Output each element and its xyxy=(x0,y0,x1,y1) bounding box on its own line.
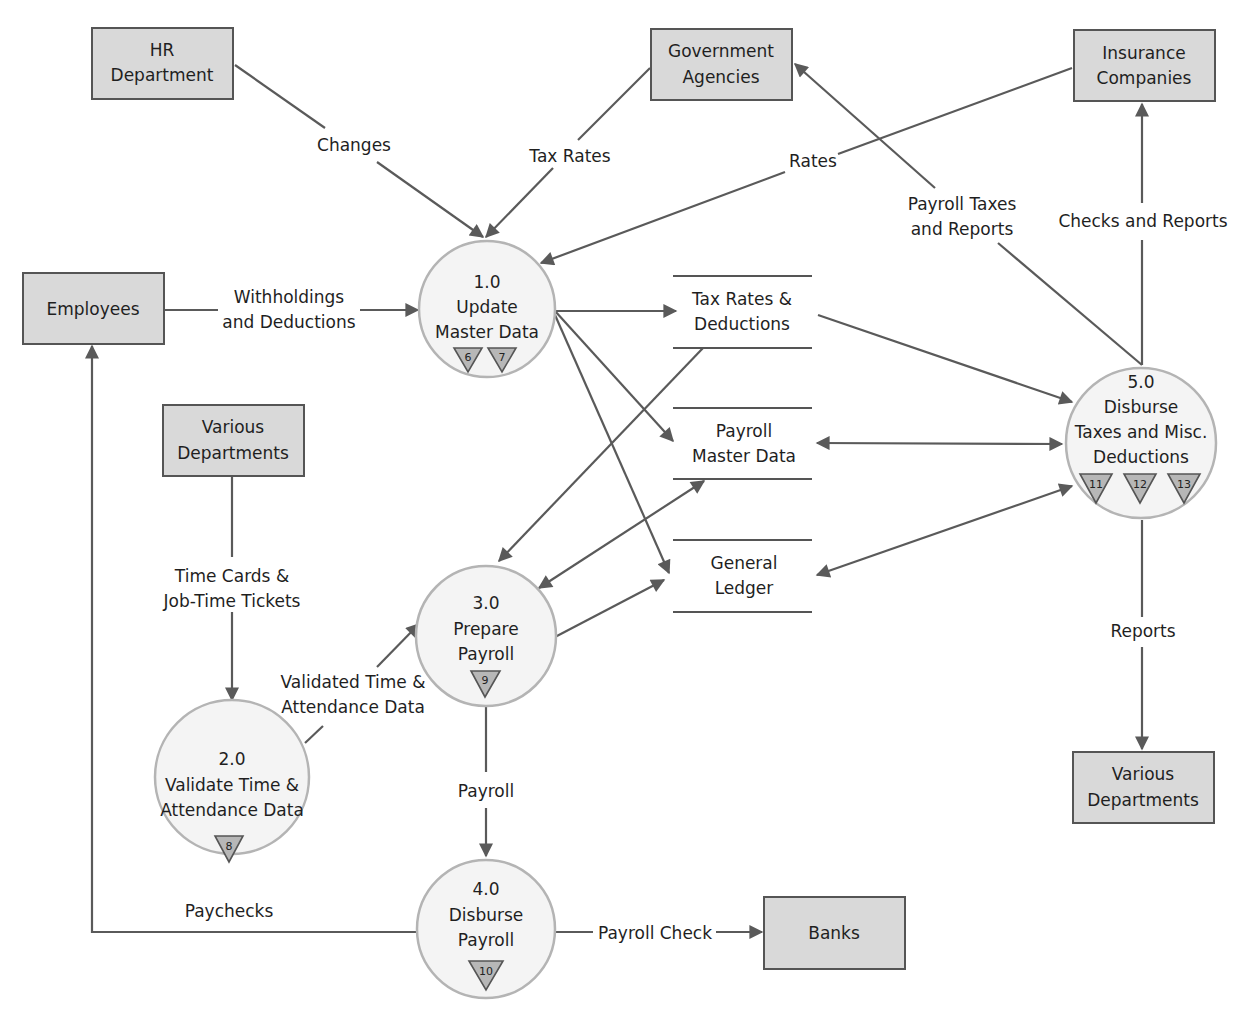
entity-insurance-companies: Insurance Companies xyxy=(1074,30,1215,101)
flow-tax-rates xyxy=(578,68,650,140)
flow-changes-arrow xyxy=(377,162,483,237)
svg-text:Agencies: Agencies xyxy=(682,67,759,87)
svg-text:Department: Department xyxy=(111,65,214,85)
svg-text:Government: Government xyxy=(668,41,774,61)
entity-employees: Employees xyxy=(23,273,164,344)
svg-text:11: 11 xyxy=(1089,478,1103,491)
flow-ledger-p5 xyxy=(817,486,1072,575)
label-checks-reports: Checks and Reports xyxy=(1058,211,1227,231)
label-time-cards-2: Job-Time Tickets xyxy=(163,591,301,611)
svg-text:Companies: Companies xyxy=(1097,68,1192,88)
svg-text:Employees: Employees xyxy=(46,299,139,319)
svg-text:Disburse: Disburse xyxy=(449,905,524,925)
flow-taxstore-p5 xyxy=(818,315,1072,402)
label-payroll: Payroll xyxy=(458,781,514,801)
label-rates: Rates xyxy=(789,151,837,171)
flow-tax-rates-arrow xyxy=(486,168,553,237)
entity-banks: Banks xyxy=(764,897,905,969)
label-payroll-taxes-2: and Reports xyxy=(911,219,1014,239)
flow-changes xyxy=(235,65,325,128)
svg-text:Payroll: Payroll xyxy=(716,421,772,441)
svg-text:13: 13 xyxy=(1177,478,1191,491)
flow-rates xyxy=(838,68,1072,154)
entity-government-agencies: Government Agencies xyxy=(651,29,792,100)
label-paychecks: Paychecks xyxy=(185,901,274,921)
label-withholdings-1: Withholdings xyxy=(234,287,345,307)
process-4-disburse-payroll: 4.0 Disburse Payroll 10 xyxy=(417,860,555,998)
svg-text:2.0: 2.0 xyxy=(218,749,245,769)
svg-text:Banks: Banks xyxy=(808,923,860,943)
flow-p3-master xyxy=(539,481,704,588)
svg-text:12: 12 xyxy=(1133,478,1147,491)
svg-text:Master Data: Master Data xyxy=(692,446,796,466)
svg-text:4.0: 4.0 xyxy=(472,879,499,899)
svg-text:Tax Rates &: Tax Rates & xyxy=(691,289,792,309)
store-tax-rates-deductions: Tax Rates & Deductions xyxy=(673,276,812,348)
svg-text:Departments: Departments xyxy=(177,443,289,463)
flow-p1-master xyxy=(555,311,673,441)
flow-validated xyxy=(305,726,323,743)
flow-validated-arrow xyxy=(377,624,419,667)
flow-payroll-taxes xyxy=(998,243,1142,365)
svg-text:Payroll: Payroll xyxy=(458,644,514,664)
label-payroll-taxes-1: Payroll Taxes xyxy=(908,194,1017,214)
store-general-ledger: General Ledger xyxy=(673,540,812,612)
process-5-disburse-taxes-deductions: 5.0 Disburse Taxes and Misc. Deductions … xyxy=(1066,368,1216,518)
flow-rates-arrow xyxy=(541,172,785,263)
label-payroll-check: Payroll Check xyxy=(598,923,712,943)
svg-text:Prepare: Prepare xyxy=(453,619,518,639)
flow-master-p5 xyxy=(817,443,1062,444)
svg-text:1.0: 1.0 xyxy=(473,272,500,292)
label-changes: Changes xyxy=(317,135,391,155)
label-withholdings-2: and Deductions xyxy=(222,312,355,332)
svg-text:10: 10 xyxy=(479,965,493,978)
data-flow-diagram: HR Department Government Agencies Insura… xyxy=(0,0,1246,1025)
process-3-prepare-payroll: 3.0 Prepare Payroll 9 xyxy=(416,566,556,706)
svg-text:7: 7 xyxy=(499,351,506,364)
svg-text:Departments: Departments xyxy=(1087,790,1199,810)
svg-text:Deductions: Deductions xyxy=(1093,447,1189,467)
svg-text:Update: Update xyxy=(456,297,518,317)
svg-text:Insurance: Insurance xyxy=(1102,43,1185,63)
entity-various-departments-sink: Various Departments xyxy=(1073,752,1214,823)
svg-text:Attendance Data: Attendance Data xyxy=(160,800,304,820)
label-validated-2: Attendance Data xyxy=(281,697,425,717)
svg-text:9: 9 xyxy=(482,674,489,687)
process-2-validate-time-attendance: 2.0 Validate Time & Attendance Data 8 xyxy=(155,700,309,862)
svg-text:HR: HR xyxy=(150,40,175,60)
label-validated-1: Validated Time & xyxy=(281,672,426,692)
svg-text:6: 6 xyxy=(465,351,472,364)
svg-text:Validate Time &: Validate Time & xyxy=(165,775,299,795)
svg-text:Taxes and Misc.: Taxes and Misc. xyxy=(1074,422,1208,442)
svg-text:8: 8 xyxy=(226,840,233,853)
svg-text:Master Data: Master Data xyxy=(435,322,539,342)
label-tax-rates: Tax Rates xyxy=(528,146,610,166)
label-reports: Reports xyxy=(1110,621,1175,641)
svg-text:Payroll: Payroll xyxy=(458,930,514,950)
process-1-update-master-data: 1.0 Update Master Data 6 7 xyxy=(419,241,555,377)
svg-text:5.0: 5.0 xyxy=(1127,372,1154,392)
store-payroll-master-data: Payroll Master Data xyxy=(673,408,812,479)
svg-text:Disburse: Disburse xyxy=(1104,397,1179,417)
entity-hr-department: HR Department xyxy=(92,28,233,99)
svg-text:General: General xyxy=(711,553,778,573)
svg-text:Ledger: Ledger xyxy=(715,578,774,598)
svg-text:Various: Various xyxy=(202,417,265,437)
entity-various-departments-source: Various Departments xyxy=(163,405,304,476)
flow-taxstore-p3 xyxy=(499,348,703,561)
label-time-cards-1: Time Cards & xyxy=(174,566,289,586)
flow-p3-ledger xyxy=(555,580,664,637)
svg-text:Deductions: Deductions xyxy=(694,314,790,334)
svg-text:3.0: 3.0 xyxy=(472,593,499,613)
svg-text:Various: Various xyxy=(1112,764,1175,784)
